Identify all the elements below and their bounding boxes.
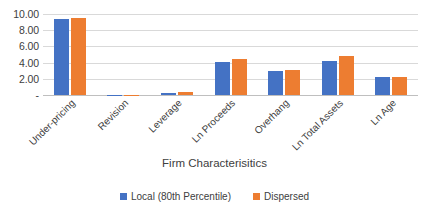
- y-axis-tick-label: 4.00: [19, 57, 39, 68]
- legend-swatch: [253, 193, 260, 200]
- bar[interactable]: [285, 70, 300, 95]
- x-axis-category-cell: Revision: [97, 95, 151, 153]
- bar[interactable]: [54, 19, 69, 95]
- x-axis-category-labels: Under-pricingRevisionLeverageLn Proceeds…: [43, 95, 418, 153]
- bar[interactable]: [392, 77, 407, 95]
- bar[interactable]: [232, 59, 247, 95]
- bar[interactable]: [339, 56, 354, 95]
- legend-swatch: [120, 193, 127, 200]
- x-axis-category-label: Revision: [96, 98, 130, 132]
- bar-chart: -2.004.006.008.0010.00 Under-pricingRevi…: [0, 0, 429, 215]
- x-axis-category-cell: Leverage: [150, 95, 204, 153]
- y-axis-tick-label: 2.00: [19, 74, 39, 85]
- bar-groups: [43, 14, 418, 95]
- bar-group: [311, 14, 365, 95]
- bar-group: [97, 14, 151, 95]
- y-axis-tick-label: -: [36, 90, 39, 101]
- legend-label: Local (80th Percentile): [131, 191, 231, 202]
- x-axis-category-label: Overhang: [253, 98, 291, 136]
- bar-group: [150, 14, 204, 95]
- bar-group: [204, 14, 258, 95]
- x-axis-category-cell: Ln Total Assets: [311, 95, 365, 153]
- x-axis-category-cell: Ln Proceeds: [204, 95, 258, 153]
- bar[interactable]: [375, 77, 390, 95]
- legend-label: Dispersed: [264, 191, 309, 202]
- x-axis-category-label: Ln Age: [369, 98, 398, 127]
- bar-group: [43, 14, 97, 95]
- bar[interactable]: [215, 62, 230, 95]
- x-axis-title: Firm Characterisitics: [0, 157, 429, 169]
- x-axis-category-label: Leverage: [147, 98, 184, 135]
- x-axis-category-label: Under-pricing: [27, 98, 77, 148]
- y-axis-tick-label: 8.00: [19, 25, 39, 36]
- y-axis: -2.004.006.008.0010.00: [0, 14, 39, 95]
- legend-item[interactable]: Local (80th Percentile): [120, 191, 231, 202]
- chart-legend: Local (80th Percentile)Dispersed: [0, 191, 429, 202]
- bar[interactable]: [322, 61, 337, 95]
- x-axis-category-cell: Under-pricing: [43, 95, 97, 153]
- bar[interactable]: [71, 18, 86, 95]
- plot-area: [43, 14, 418, 95]
- bar-group: [257, 14, 311, 95]
- bar-group: [364, 14, 418, 95]
- y-axis-tick-label: 6.00: [19, 41, 39, 52]
- y-axis-tick-label: 10.00: [13, 9, 39, 20]
- bar[interactable]: [268, 71, 283, 95]
- legend-item[interactable]: Dispersed: [253, 191, 309, 202]
- x-axis-category-cell: Ln Age: [364, 95, 418, 153]
